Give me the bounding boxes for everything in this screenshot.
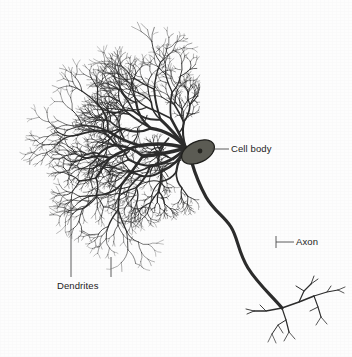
dendrite-branch [183,50,185,56]
dendrite-branch [77,129,79,131]
dendrite-branch [162,46,166,49]
dendrite-branch [154,137,155,140]
dendrite-branch [188,71,191,74]
dendrite-branch [105,172,108,174]
nucleus-dot [198,149,203,154]
dendrite-branch [35,111,39,118]
dendrite-branch [53,139,60,141]
dendrite-branch [188,213,190,215]
dendrite-branch [174,66,176,69]
dendrite-branch [143,150,146,152]
dendrite-branch [63,102,72,110]
dendrite-branch [73,72,77,75]
dendrite-branch [62,89,66,90]
dendrite-branch [73,119,77,120]
dendrite-branch [89,107,91,109]
dendrite-branch [50,158,54,163]
axon-terminal-branch [316,317,321,325]
dendrite-branch [184,77,185,81]
dendrite-branch [130,59,131,64]
dendrite-branch [170,92,172,118]
dendrite-branch [179,93,180,96]
dendrite-branch [48,155,54,159]
axon-group [192,163,282,308]
dendrite-branch [136,264,144,269]
dendrites-group [20,22,200,271]
dendrite-branch [128,216,129,221]
dendrite-branch [132,230,133,235]
dendrite-branch [172,113,175,114]
axon-terminal-branch [296,286,304,291]
dendrite-branch [102,207,104,216]
dendrite-branch [100,74,103,76]
dendrite-branch [182,188,188,197]
dendrite-branch [88,134,90,135]
dendrite-branch [158,197,161,198]
dendrite-branch [61,146,67,151]
dendrite-branch [32,155,37,160]
dendrite-branch [91,74,96,76]
dendrite-branch [54,215,61,217]
dendrite-branch [141,253,142,262]
dendrite-branch [157,243,164,244]
dendrite-branch [79,69,84,75]
dendrite-branch [137,22,141,31]
axon-terminal-branch [338,287,345,290]
dendrite-branch [57,226,66,234]
dendrite-branch [106,186,109,187]
label-axon: Axon [296,236,318,247]
dendrite-branch [82,109,86,110]
dendrite-branch [146,58,150,62]
dendrite-branch [73,221,79,228]
dendrite-branch [41,160,42,165]
dendrite-branch [78,106,80,110]
dendrite-branch [83,220,84,224]
dendrite-branch [119,200,123,201]
dendrite-branch [169,194,171,196]
dendrite-branch [138,60,143,62]
dendrite-branch [145,195,152,201]
dendrite-branch [150,57,151,61]
dendrite-branch [190,62,191,70]
dendrite-branch [93,62,99,65]
dendrite-branch [183,41,187,42]
dendrite-branch [100,206,102,211]
dendrite-branch [182,202,183,205]
dendrite-branch [90,74,92,79]
axon-terminal-branch [289,332,295,339]
dendrite-branch [90,83,94,84]
dendrite-branch [40,148,42,151]
dendrite-branch [80,162,88,164]
dendrite-branch [99,216,102,221]
dendrite-branch [60,94,62,102]
dendrite-branch [181,211,182,213]
dendrite-branch [166,84,167,89]
axon-terminal-branch [284,332,289,341]
dendrite-branch [68,219,70,224]
dendrite-branch [114,252,115,256]
dendrite-branch [83,138,85,139]
dendrite-branch [109,197,112,200]
dendrite-branch [76,180,78,183]
dendrite-branch [90,238,94,241]
dendrite-branch [170,64,171,70]
dendrite-branch [190,58,193,62]
dendrite-branch [152,226,154,227]
dendrite-branch [164,203,165,211]
dendrite-branch [187,76,189,77]
dendrite-branch [111,78,113,80]
dendrite-branch [151,223,152,226]
dendrite-branch [84,117,89,118]
dendrite-branch [180,92,183,93]
dendrite-branch [167,27,168,31]
dendrite-branch [164,216,166,219]
dendrite-branch [178,197,181,203]
dendrite-branch [76,109,80,110]
dendrite-branch [141,227,142,231]
dendrite-branch [117,47,120,51]
dendrite-branch [102,187,104,188]
dendrite-branch [197,103,198,105]
dendrite-branch [90,72,94,73]
dendrite-branch [157,137,158,141]
dendrite-branch [22,155,26,160]
